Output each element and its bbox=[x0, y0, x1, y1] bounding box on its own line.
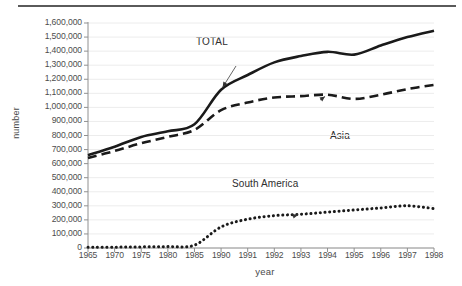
annotation-arrowhead bbox=[319, 96, 325, 101]
series-line-south-america bbox=[88, 206, 434, 247]
chart-figure: number year 1,600,0001,500,0001,400,0001… bbox=[0, 0, 462, 286]
plot-area bbox=[0, 0, 462, 286]
